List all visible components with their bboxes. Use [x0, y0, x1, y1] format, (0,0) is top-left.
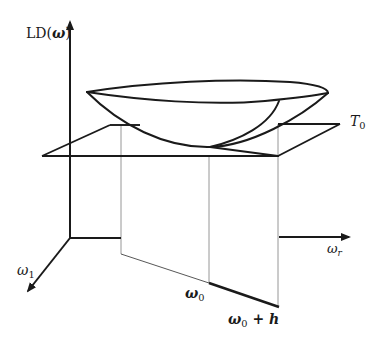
- base-line-to-omega0: [121, 254, 209, 283]
- plane-label-sub: 0: [359, 120, 365, 131]
- y-axis-label-symbol: ω: [52, 25, 65, 41]
- surface-top-rim-lower: [87, 92, 328, 103]
- axes: [28, 22, 349, 307]
- y-axis-label-prefix: LD(: [26, 25, 52, 41]
- plane-left-edge: [42, 125, 110, 156]
- ld-surface: [87, 80, 328, 156]
- plane-right-edge: [278, 124, 340, 156]
- segment-omega0-to-omega0-plus-h: [209, 283, 279, 307]
- omega1-sub: 1: [28, 269, 34, 280]
- omega0-sub: 0: [198, 292, 204, 303]
- plane-label-symbol: T: [350, 113, 359, 129]
- omega0-plus-h-label: ω0 + h: [228, 312, 279, 329]
- plane-label-t0: T0: [350, 114, 366, 131]
- omega-r-axis-label: ωr: [327, 242, 342, 258]
- omega0-h-rest: + h: [248, 311, 280, 327]
- surface-top-rim-upper: [87, 80, 328, 93]
- tangent-plane-t0: [42, 124, 340, 156]
- y-axis-label-suffix: ): [65, 25, 70, 41]
- omega0-symbol: ω: [185, 285, 198, 301]
- projection-lines: [121, 124, 278, 307]
- y-axis-label: LD(ω): [26, 26, 71, 40]
- omega1-symbol: ω: [17, 262, 28, 278]
- surface-to-plane-contact: [210, 147, 278, 156]
- omega1-axis-label: ω1: [17, 263, 35, 280]
- omega0-label: ω0: [185, 286, 205, 303]
- omega0-h-symbol: ω: [228, 311, 241, 327]
- omega-r-sub: r: [338, 248, 342, 258]
- surface-bowl-curve: [87, 92, 328, 147]
- omega-r-symbol: ω: [327, 241, 338, 256]
